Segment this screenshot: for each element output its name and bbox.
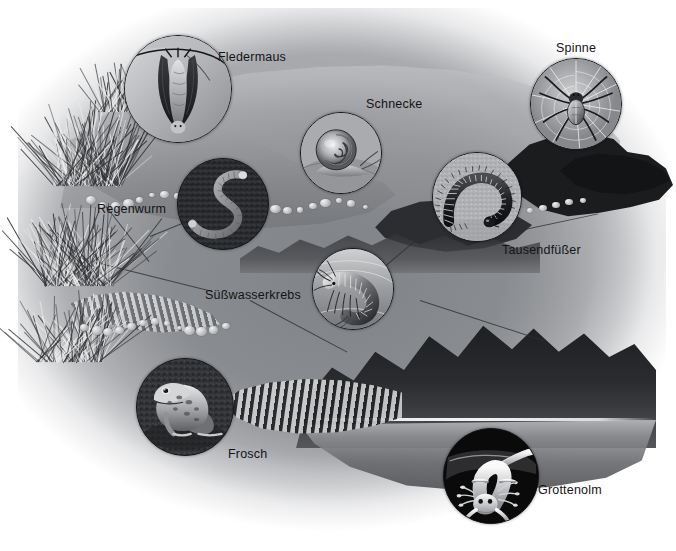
earthworm-icon xyxy=(178,159,268,249)
label-tausendfusser: Tausendfüßer xyxy=(502,243,581,257)
earthworm-inset[interactable] xyxy=(177,158,269,250)
snail-icon xyxy=(301,113,381,193)
label-schnecke: Schnecke xyxy=(366,97,423,111)
bat-icon xyxy=(125,36,231,142)
label-grottenolm: Grottenolm xyxy=(538,483,602,497)
freshwater-crustacean-inset[interactable] xyxy=(312,248,394,330)
label-regenwurm: Regenwurm xyxy=(97,202,166,216)
label-spinne: Spinne xyxy=(556,41,596,55)
label-suesswasserkrebs: Süßwasserkrebs xyxy=(205,288,301,302)
pebble-chain xyxy=(80,316,230,340)
bat-inset[interactable] xyxy=(124,35,232,143)
freshwater-crustacean-icon xyxy=(313,249,393,329)
olm-inset[interactable] xyxy=(443,428,539,524)
millipede-inset[interactable] xyxy=(432,152,522,242)
illustration-canvas: Fledermaus Schnecke Spinne Regenwurm Tau… xyxy=(0,0,676,551)
pebble-chain xyxy=(258,196,368,218)
spider-icon xyxy=(531,59,621,149)
label-fledermaus: Fledermaus xyxy=(218,50,286,64)
label-frosch: Frosch xyxy=(228,447,267,461)
snail-inset[interactable] xyxy=(300,112,382,194)
millipede-icon xyxy=(433,153,521,241)
olm-icon xyxy=(444,429,538,523)
spider-inset[interactable] xyxy=(530,58,622,150)
frog-inset[interactable] xyxy=(136,358,234,456)
frog-icon xyxy=(137,359,233,455)
